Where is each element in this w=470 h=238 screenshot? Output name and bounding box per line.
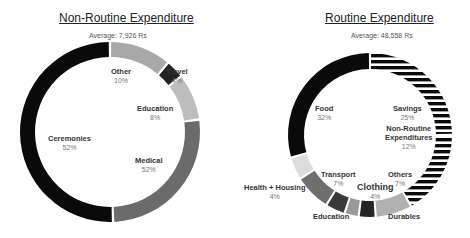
label-education-routine: Education: [313, 212, 349, 221]
label-health-housing: Health + Housing4%: [244, 183, 305, 201]
label-non-routine-expenditures: Non-RoutineExpenditures12%: [385, 124, 433, 151]
label-other: Other10%: [111, 67, 131, 85]
label-savings: Savings25%: [393, 104, 422, 122]
label-durables: Durables: [388, 212, 420, 221]
label-education: Education8%: [137, 104, 173, 122]
segment-durables: [360, 200, 375, 217]
right-chart-average: Average: 48,558 Rs: [351, 32, 413, 39]
label-transport: Transport7%: [321, 170, 356, 188]
label-food: Food32%: [315, 104, 333, 122]
left-chart-average: Average: 7,926 Rs: [89, 32, 147, 39]
label-ceremonies: Ceremonies52%: [48, 134, 91, 152]
label-clothing: Clothing4%: [357, 183, 394, 201]
segment-ceremonies: [20, 42, 112, 222]
left-chart-title: Non-Routine Expenditure: [59, 11, 194, 25]
right-chart-title: Routine Expenditure: [325, 11, 434, 25]
label-medical: Medical52%: [135, 156, 163, 174]
label-travel: Travel4%: [166, 67, 188, 85]
